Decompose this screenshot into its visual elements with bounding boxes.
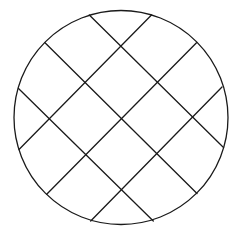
diagram-canvas — [0, 0, 239, 235]
diagonal-grid-lines — [19, 15, 224, 221]
circle-grid-diagram — [0, 0, 239, 235]
grid-line-diag-a-1 — [89, 15, 223, 148]
